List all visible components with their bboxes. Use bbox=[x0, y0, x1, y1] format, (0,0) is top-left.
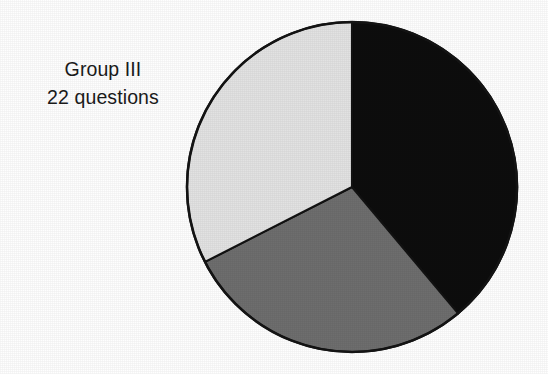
pie-chart-svg bbox=[0, 0, 548, 374]
pie-chart bbox=[0, 0, 548, 374]
pie-slice-group bbox=[187, 22, 517, 352]
pie-chart-figure: Group III 22 questions bbox=[0, 0, 548, 374]
